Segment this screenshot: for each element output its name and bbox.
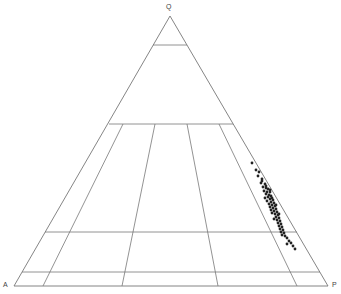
sample-point: [278, 217, 281, 220]
sample-point: [286, 237, 289, 240]
vertex-label-p: P: [332, 281, 337, 288]
sample-point: [270, 201, 273, 204]
sample-point: [283, 232, 286, 235]
sample-point: [258, 171, 261, 174]
ternary-plot: [0, 0, 341, 294]
sample-point: [268, 203, 271, 206]
sample-point: [288, 240, 291, 243]
triangle-outline: [14, 16, 328, 286]
sample-point: [276, 219, 279, 222]
vertex-label-q: Q: [166, 3, 171, 10]
sample-point: [263, 190, 266, 193]
sample-point: [278, 213, 281, 216]
sample-point: [292, 245, 295, 248]
sample-point: [277, 222, 280, 225]
sample-point: [275, 208, 278, 211]
field-boundary-line: [219, 124, 297, 286]
sample-point: [279, 228, 282, 231]
sample-point: [294, 248, 297, 251]
field-boundary-line: [43, 124, 123, 286]
sample-point: [273, 202, 276, 205]
sample-point: [286, 243, 289, 246]
sample-point: [272, 199, 275, 202]
sample-point: [284, 235, 287, 238]
sample-point: [281, 226, 284, 229]
field-boundary-line: [122, 124, 155, 286]
sample-point: [265, 193, 268, 196]
sample-point: [274, 213, 277, 216]
sample-point: [261, 180, 264, 183]
sample-point: [282, 229, 285, 232]
sample-point: [266, 200, 269, 203]
sample-point: [290, 242, 293, 245]
sample-point: [270, 209, 273, 212]
qapf-diagram: Q A P: [0, 0, 341, 294]
sample-point: [269, 189, 272, 192]
sample-point: [257, 175, 260, 178]
sample-point: [269, 198, 272, 201]
sample-point: [251, 162, 254, 165]
vertex-label-a: A: [3, 281, 8, 288]
sample-point: [272, 207, 275, 210]
sample-point: [255, 169, 258, 172]
sample-point: [275, 204, 278, 207]
sample-point: [273, 210, 276, 213]
sample-point: [273, 218, 276, 221]
sample-point: [265, 185, 268, 188]
sample-point: [267, 196, 270, 199]
sample-point: [279, 220, 282, 223]
field-boundary-line: [187, 124, 218, 286]
sample-point: [280, 231, 283, 234]
sample-point: [275, 216, 278, 219]
sample-point: [271, 204, 274, 207]
sample-point: [271, 212, 274, 215]
sample-point: [276, 211, 279, 214]
sample-point: [264, 197, 267, 200]
sample-point: [262, 186, 265, 189]
sample-point: [278, 225, 281, 228]
sample-point: [269, 206, 272, 209]
sample-point: [280, 223, 283, 226]
sample-point: [281, 234, 284, 237]
